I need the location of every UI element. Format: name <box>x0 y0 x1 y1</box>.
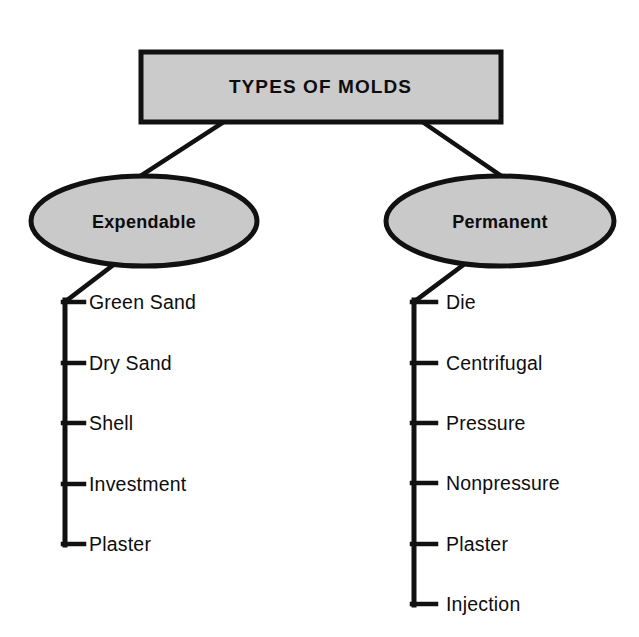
leaf-label-shell: Shell <box>89 414 133 434</box>
connector-root-to-expendable <box>139 123 222 177</box>
connector-root-to-permanent <box>424 123 503 177</box>
leaf-label-green-sand: Green Sand <box>89 293 196 313</box>
leaf-label-pressure: Pressure <box>446 414 526 434</box>
leaf-label-injection: Injection <box>446 595 520 615</box>
leaf-label-investment: Investment <box>89 475 186 495</box>
leaf-label-plaster-permanent: Plaster <box>446 535 508 555</box>
branch-label-expendable: Expendable <box>31 213 257 231</box>
leaf-label-plaster-expendable: Plaster <box>89 535 151 555</box>
leaf-label-die: Die <box>446 293 476 313</box>
types-of-molds-diagram: TYPES OF MOLDS Expendable Permanent Gree… <box>0 0 639 637</box>
leaf-label-dry-sand: Dry Sand <box>89 354 172 374</box>
leaf-label-nonpressure: Nonpressure <box>446 474 560 494</box>
root-node-label: TYPES OF MOLDS <box>140 77 501 96</box>
branch-label-permanent: Permanent <box>386 213 614 231</box>
leaf-label-centrifugal: Centrifugal <box>446 354 543 374</box>
